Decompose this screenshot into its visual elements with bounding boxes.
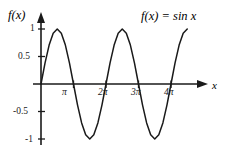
y-axis <box>37 12 45 145</box>
y-axis-label: f(x) <box>8 9 25 22</box>
x-axis-label: x <box>212 80 217 91</box>
y-tick-label-neg-1: -1 <box>25 135 33 145</box>
x-tick-label-pi: π <box>62 88 67 98</box>
y-tick-label-neg-0-5: -0.5 <box>13 107 28 117</box>
x-tick-label-2pi: 2π <box>98 88 108 98</box>
x-tick-label-4pi: 4π <box>164 88 174 98</box>
sine-function-plot: f(x) x f(x) = sin x 1 0.5 -0.5 -1 π 2π 3… <box>0 0 231 157</box>
y-tick-label-1: 1 <box>30 24 35 34</box>
x-axis <box>33 80 208 88</box>
x-tick-label-3pi: 3π <box>131 88 141 98</box>
y-tick-label-0-5: 0.5 <box>18 52 30 62</box>
equation-annotation: f(x) = sin x <box>141 10 196 23</box>
